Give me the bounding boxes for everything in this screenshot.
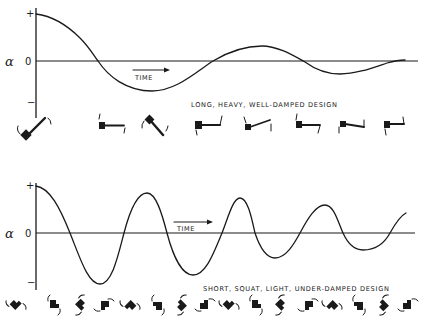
- top-tick-minus: −: [27, 97, 35, 108]
- pendulum-frame-icon: [5, 294, 28, 317]
- top-pendulum-frames: [17, 114, 404, 141]
- top-time-label: TIME: [134, 74, 153, 82]
- pendulum-frame-icon: [373, 294, 396, 317]
- pendulum-frame-icon: [244, 117, 271, 131]
- pendulum-frame-icon: [384, 117, 404, 135]
- pendulum-frame-icon: [218, 294, 241, 317]
- top-tick-plus: +: [26, 8, 34, 19]
- pendulum-frame-icon: [171, 294, 194, 317]
- pendulum-frame-icon: [298, 299, 318, 312]
- top-time-arrow: TIME: [133, 68, 170, 83]
- pendulum-frame-icon: [321, 294, 344, 317]
- bottom-response-curve: [36, 186, 406, 284]
- damping-diagram: + 0 − α TIME LONG, HEAVY, WELL-DAMPED DE…: [0, 0, 433, 323]
- pendulum-frame-icon: [296, 114, 320, 133]
- bottom-pendulum-frames: [5, 294, 418, 317]
- bottom-alpha-label: α: [5, 226, 14, 241]
- top-caption: LONG, HEAVY, WELL-DAMPED DESIGN: [191, 101, 338, 109]
- bottom-tick-minus: −: [27, 277, 35, 288]
- pendulum-frame-icon: [69, 294, 92, 317]
- bottom-time-label: TIME: [176, 225, 195, 233]
- pendulum-frame-icon: [119, 294, 142, 317]
- top-tick-zero: 0: [25, 56, 31, 67]
- pendulum-frame-icon: [152, 295, 165, 315]
- pendulum-frame-icon: [269, 294, 292, 317]
- pendulum-frame-icon: [48, 295, 61, 315]
- pendulum-frame-icon: [94, 299, 114, 312]
- bottom-time-arrow: TIME: [174, 220, 213, 234]
- top-response-curve: [36, 14, 405, 91]
- top-alpha-label: α: [5, 54, 14, 69]
- bottom-panel: + 0 − α TIME SHORT, SQUAT, LIGHT, UNDER-…: [5, 180, 418, 316]
- pendulum-frame-icon: [99, 114, 125, 133]
- top-panel: + 0 − α TIME LONG, HEAVY, WELL-DAMPED DE…: [5, 8, 418, 141]
- pendulum-frame-icon: [250, 295, 263, 315]
- pendulum-frame-icon: [195, 299, 215, 312]
- pendulum-frame-icon: [17, 118, 51, 141]
- pendulum-frame-icon: [195, 116, 222, 135]
- pendulum-frame-icon: [339, 120, 364, 133]
- pendulum-frame-icon: [398, 299, 418, 312]
- bottom-tick-zero: 0: [25, 228, 31, 239]
- bottom-caption: SHORT, SQUAT, LIGHT, UNDER-DAMPED DESIGN: [203, 285, 390, 293]
- bottom-tick-plus: +: [26, 180, 34, 191]
- pendulum-frame-icon: [353, 295, 366, 315]
- pendulum-frame-icon: [142, 115, 168, 135]
